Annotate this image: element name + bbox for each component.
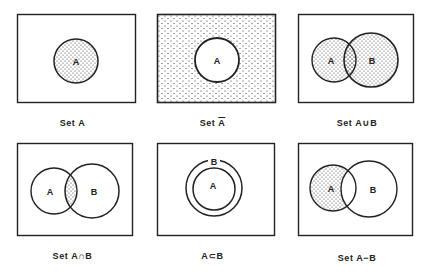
circle-label-a: A (214, 56, 221, 66)
caption-set-a-union-b: Set A∪B (285, 118, 429, 128)
caption-set-a-minus-b: Set A−B (285, 253, 429, 263)
circle-label-a: A (73, 57, 80, 67)
circle-label-b: B (211, 157, 218, 167)
panel-set-a-union-b: A B Set A∪B (285, 0, 429, 136)
circle-label-b: B (370, 185, 377, 195)
circle-label-b: B (91, 187, 98, 197)
caption-set-a-intersect-b: Set A∩B (0, 251, 145, 261)
circle-label-a: A (328, 56, 335, 66)
venn-set-a: A (0, 0, 145, 136)
venn-set-a-minus-b: A B (285, 136, 429, 272)
venn-set-a-complement: A (140, 0, 285, 136)
caption-set-a: Set A (0, 118, 145, 128)
panel-set-a: A Set A (0, 0, 145, 136)
circle-label-a: A (328, 184, 335, 194)
panel-a-subset-b: B A A⊂B (140, 136, 285, 272)
circle-label-a: A (210, 181, 217, 191)
circle-label-a: A (47, 187, 54, 197)
panel-set-a-complement: A Set A (140, 0, 285, 136)
venn-set-a-union-b: A B (285, 0, 429, 136)
panel-set-a-minus-b: A B Set A−B (285, 136, 429, 272)
caption-set-a-complement: Set A (140, 118, 285, 128)
circle-label-b: B (369, 56, 376, 66)
caption-a-subset-b: A⊂B (140, 251, 285, 261)
panel-set-a-intersect-b: A B Set A∩B (0, 136, 145, 272)
